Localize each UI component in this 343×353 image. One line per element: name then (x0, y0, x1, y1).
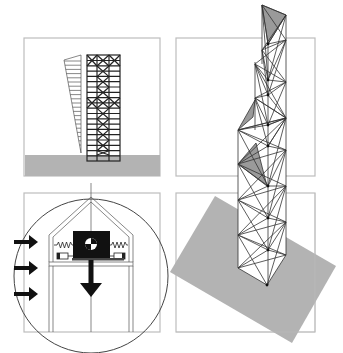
spring-right (110, 242, 128, 248)
braced-frame (87, 55, 120, 161)
elevation-panel (25, 55, 160, 176)
wind-arrows (14, 235, 38, 301)
rail (72, 258, 124, 261)
load-profile (64, 55, 81, 153)
wind-arrow-icon (14, 235, 38, 249)
diagram-canvas (0, 0, 343, 353)
gravity-arrow-icon (80, 260, 102, 297)
spring-left (54, 242, 73, 248)
damper-panel (14, 183, 168, 353)
tower-panel (170, 5, 336, 343)
wind-arrow-icon (14, 261, 38, 275)
ground-band (25, 155, 160, 176)
damper-left (57, 253, 73, 259)
center-of-mass-icon (85, 238, 97, 250)
